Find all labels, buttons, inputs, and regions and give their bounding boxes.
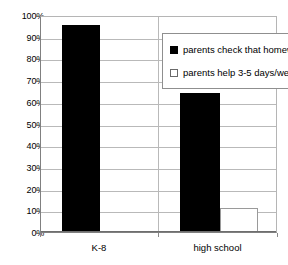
x-tick-mark <box>277 233 278 237</box>
x-tick-mark <box>158 233 159 237</box>
legend-swatch-filled-square-icon <box>170 46 178 54</box>
bar-hs-check <box>180 93 220 232</box>
bar-chart: 100% 90% 80% 70% 60% 50% 40% 30% 20% 10%… <box>0 0 288 265</box>
x-category-label-high-school: high school <box>158 243 277 253</box>
x-category-label-k8: K-8 <box>40 243 158 253</box>
category-divider <box>158 17 159 232</box>
x-tick-mark <box>40 233 41 237</box>
legend-item-help: parents help 3-5 days/week <box>170 68 288 78</box>
legend-label: parents check that homework is done <box>183 45 288 55</box>
bar-k8-check <box>62 25 100 232</box>
legend-label: parents help 3-5 days/week <box>183 68 288 78</box>
plot-area: parents check that homework is done pare… <box>40 16 277 233</box>
chart-legend: parents check that homework is done pare… <box>162 33 288 89</box>
legend-swatch-hollow-square-icon <box>170 69 178 77</box>
x-axis-line <box>41 231 276 232</box>
bar-hs-help <box>220 208 258 232</box>
legend-item-check: parents check that homework is done <box>170 45 288 55</box>
